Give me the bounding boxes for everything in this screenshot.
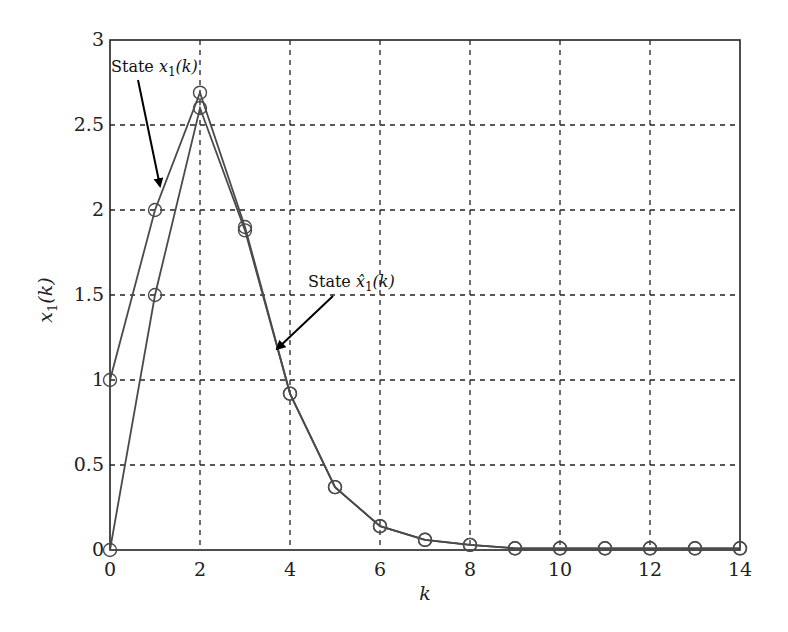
line-chart: 0246810121400.511.522.53 State x1(k)Stat… <box>0 0 788 632</box>
y-tick-label: 3 <box>92 28 104 50</box>
y-axis-label: x1(k) <box>34 277 60 322</box>
series-line-1 <box>110 108 740 550</box>
annotation-label-0: State x1(k) <box>111 57 198 79</box>
x-tick-label: 10 <box>548 558 572 580</box>
series-line-0 <box>110 93 740 549</box>
x-tick-label: 4 <box>284 558 296 580</box>
x-tick-label: 14 <box>728 558 752 580</box>
x-tick-label: 0 <box>104 558 116 580</box>
annotation-label-1: State x̂1(k) <box>308 272 395 294</box>
y-tick-label: 1 <box>92 368 104 390</box>
x-tick-label: 2 <box>194 558 206 580</box>
grid-lines <box>110 40 740 550</box>
y-tick-label: 2 <box>92 198 104 220</box>
y-tick-label: 2.5 <box>74 113 104 135</box>
y-tick-label: 0 <box>92 538 104 560</box>
annotation-arrow-icon <box>138 80 160 186</box>
x-axis-label: k <box>419 582 431 604</box>
annotation-arrow-icon <box>277 296 333 349</box>
y-tick-label: 1.5 <box>74 283 104 305</box>
svg-text:x1(k): x1(k) <box>34 277 60 322</box>
x-tick-label: 12 <box>638 558 662 580</box>
y-tick-label: 0.5 <box>74 453 104 475</box>
x-tick-label: 6 <box>374 558 386 580</box>
x-tick-label: 8 <box>464 558 476 580</box>
